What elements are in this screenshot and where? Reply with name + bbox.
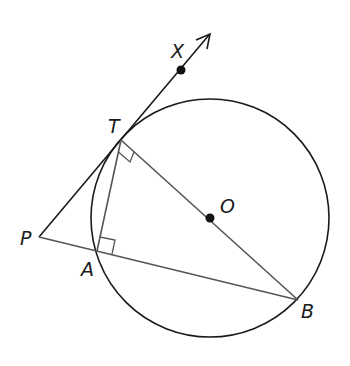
geometry-diagram: X T O P A B <box>0 0 350 366</box>
label-x: X <box>170 40 185 62</box>
right-angle-marker-t <box>119 152 135 162</box>
label-p: P <box>20 227 32 249</box>
label-a: A <box>79 258 94 280</box>
tangent-ray-px <box>39 35 209 237</box>
label-o: O <box>220 195 235 217</box>
right-angle-marker-a <box>100 237 115 254</box>
point-x <box>177 66 186 75</box>
secant-pb <box>39 237 298 300</box>
label-b: B <box>301 300 314 322</box>
label-t: T <box>108 115 121 137</box>
chord-ta <box>97 140 121 251</box>
point-o <box>206 214 215 223</box>
